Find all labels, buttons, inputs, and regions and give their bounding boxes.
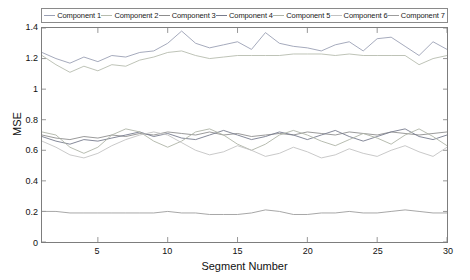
legend-item-5[interactable]: Component 5 xyxy=(273,11,330,20)
y-tick-label: 0.2 xyxy=(4,207,38,217)
legend-line-swatch xyxy=(101,15,112,16)
x-tick-label: 15 xyxy=(232,246,242,256)
y-tick-label: 0.4 xyxy=(4,176,38,186)
legend-item-6[interactable]: Component 6 xyxy=(330,11,387,20)
x-tick-label: 10 xyxy=(162,246,172,256)
x-tick-label: 25 xyxy=(373,246,383,256)
legend-item-label: Component 5 xyxy=(286,11,330,20)
legend-item-label: Component 6 xyxy=(344,11,388,20)
series-line-1 xyxy=(42,31,447,63)
legend-line-swatch xyxy=(44,15,55,16)
chart-container: Component 1Component 2Component 3Compone… xyxy=(0,0,470,280)
x-tick-label: 30 xyxy=(443,246,453,256)
x-axis-label: Segment Number xyxy=(41,260,448,272)
chart-legend: Component 1Component 2Component 3Compone… xyxy=(41,8,448,23)
legend-line-swatch xyxy=(388,15,399,16)
plot-area xyxy=(41,27,448,243)
series-line-7 xyxy=(42,210,447,215)
plot-lines xyxy=(42,28,447,242)
legend-item-2[interactable]: Component 2 xyxy=(101,11,158,20)
y-tick-label: 1 xyxy=(4,84,38,94)
y-tick-label: 0 xyxy=(4,238,38,248)
x-tick-label: 20 xyxy=(303,246,313,256)
legend-item-label: Component 2 xyxy=(114,11,158,20)
legend-item-label: Component 1 xyxy=(57,11,101,20)
legend-item-label: Component 3 xyxy=(172,11,216,20)
y-tick-label: 1.2 xyxy=(4,53,38,63)
legend-item-label: Component 4 xyxy=(229,11,273,20)
series-line-2 xyxy=(42,51,447,72)
y-tick-label: 1.4 xyxy=(4,22,38,32)
series-line-6 xyxy=(42,132,447,158)
legend-item-1[interactable]: Component 1 xyxy=(44,11,101,20)
legend-item-7[interactable]: Component 7 xyxy=(388,11,445,20)
legend-line-swatch xyxy=(273,15,284,16)
legend-line-swatch xyxy=(216,15,227,16)
legend-line-swatch xyxy=(331,15,342,16)
legend-item-4[interactable]: Component 4 xyxy=(216,11,273,20)
y-axis-label: MSE xyxy=(11,94,23,154)
x-tick-label: 5 xyxy=(95,246,100,256)
legend-item-label: Component 7 xyxy=(401,11,445,20)
legend-line-swatch xyxy=(159,15,170,16)
legend-item-3[interactable]: Component 3 xyxy=(159,11,216,20)
